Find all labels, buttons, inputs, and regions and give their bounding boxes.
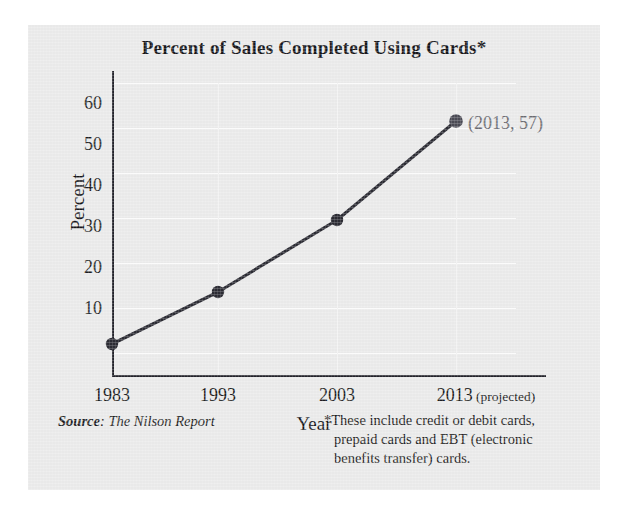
- y-axis-title: Percent: [67, 174, 89, 231]
- x-tick-main: 1983: [94, 385, 130, 405]
- x-tick-label-1993: 1993: [200, 385, 236, 406]
- y-tick-label-10: 10: [50, 298, 102, 319]
- x-tick-main: 1993: [200, 385, 236, 405]
- source-label: Source: [58, 413, 100, 429]
- y-tick-label-20: 20: [50, 257, 102, 278]
- data-point-2013: [449, 114, 463, 128]
- footnote: *These include credit or debit cards, pr…: [324, 411, 594, 468]
- series-line: [112, 121, 456, 344]
- x-tick-main: 2013: [437, 385, 473, 405]
- plot-area: 10 20 30 40 50 60 1983 1993 2003 2013 (p…: [112, 83, 516, 376]
- x-tick-label-1983: 1983: [94, 385, 130, 406]
- data-point-2003: [331, 214, 343, 226]
- footnote-line-2: prepaid cards and EBT (electronic: [324, 430, 594, 449]
- data-point-annotation: (2013, 57): [468, 113, 543, 134]
- footnote-line-1: *These include credit or debit cards,: [324, 411, 594, 430]
- chart-figure: Percent of Sales Completed Using Cards* …: [28, 25, 600, 490]
- data-point-1993: [212, 286, 224, 298]
- x-tick-label-2013: 2013 (projected): [437, 385, 536, 406]
- x-tick-label-2003: 2003: [319, 385, 355, 406]
- x-tick-suffix: (projected): [473, 389, 536, 404]
- data-point-1983: [106, 338, 118, 350]
- source-text: The Nilson Report: [108, 413, 214, 429]
- footnote-line-3: benefits transfer) cards.: [324, 449, 594, 468]
- y-tick-label-50: 50: [50, 134, 102, 155]
- y-tick-label-60: 60: [50, 93, 102, 114]
- source-note: Source: The Nilson Report: [58, 413, 215, 430]
- chart-title: Percent of Sales Completed Using Cards*: [28, 37, 600, 59]
- data-series: [112, 83, 516, 376]
- x-tick-main: 2003: [319, 385, 355, 405]
